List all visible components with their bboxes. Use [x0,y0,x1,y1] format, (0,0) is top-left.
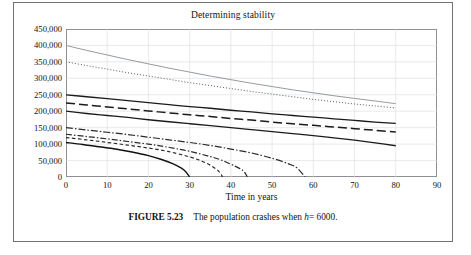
y-axis-tick-label: 350,000 [34,58,62,67]
x-axis-tick-label: 30 [185,181,194,190]
x-axis-tick-label: 90 [433,181,442,190]
x-axis-tick-label: 80 [391,181,400,190]
y-axis-tick-label: 150,000 [34,123,62,132]
y-axis-tick-label: 200,000 [34,107,62,116]
y-axis-tick-label: 400,000 [34,41,62,50]
x-axis-tick-label: 10 [103,181,112,190]
gridlines [66,29,437,177]
plot-wrapper: 050,000100,000150,000200,000250,000300,0… [66,29,437,177]
figure-caption-text: The population crashes when [193,212,302,222]
y-axis-tick-label: 450,000 [34,25,62,34]
figure-caption-label: FIGURE 5.23 [129,212,184,222]
line-chart-svg [66,29,437,177]
x-axis-tick-label: 70 [350,181,359,190]
figure-caption-equation: = 6000. [309,212,338,222]
x-axis-tick-label: 40 [227,181,236,190]
x-axis-tick-label: 0 [64,181,68,190]
figure-frame: Determining stability 050,000100,000150,… [13,2,453,242]
y-axis-tick-label: 100,000 [34,140,62,149]
x-axis-label: Time in years [66,192,437,202]
chart-title: Determining stability [14,10,452,20]
y-axis-tick-label: 0 [58,173,62,182]
y-axis-tick-label: 250,000 [34,90,62,99]
x-axis-tick-label: 60 [309,181,318,190]
y-axis-tick-label: 50,000 [38,156,62,165]
figure-caption: FIGURE 5.23The population crashes when h… [14,212,452,222]
series-line [66,128,305,177]
x-axis-tick-label: 50 [268,181,277,190]
x-axis-tick-label: 20 [144,181,153,190]
y-axis-tick-label: 300,000 [34,74,62,83]
